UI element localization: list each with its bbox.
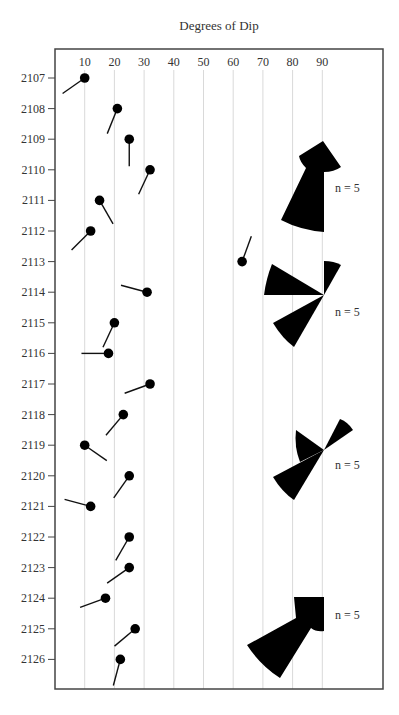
tadpole xyxy=(95,196,113,224)
rose-petal xyxy=(296,430,325,462)
tadpole xyxy=(113,655,125,686)
tadpole-head xyxy=(86,226,96,236)
tadpole-head xyxy=(101,593,111,603)
tadpole xyxy=(125,379,155,393)
depth-label: 2123 xyxy=(21,561,45,575)
tadpole xyxy=(81,349,113,359)
x-axis-tick-labels: 102030405060708090 xyxy=(79,55,329,69)
tadpole xyxy=(80,440,107,460)
tadpole-markers xyxy=(63,73,252,685)
tadpole xyxy=(121,285,152,297)
rose-petal xyxy=(247,597,324,678)
plot-frame xyxy=(55,49,383,689)
tadpole-head xyxy=(86,502,96,512)
tadpole-head xyxy=(104,349,114,359)
tadpole-head xyxy=(119,410,129,420)
depth-label: 2121 xyxy=(21,499,45,513)
depth-label: 2109 xyxy=(21,132,45,146)
rose-petal xyxy=(264,264,324,295)
depth-label: 2112 xyxy=(21,224,45,238)
x-tick-label: 90 xyxy=(316,55,328,69)
vertical-gridlines xyxy=(85,70,323,689)
rose-diagram-2: n = 5 xyxy=(264,261,360,347)
depth-label: 2110 xyxy=(21,163,45,177)
tadpole xyxy=(107,563,134,583)
tadpole xyxy=(106,410,128,435)
depth-label: 2116 xyxy=(21,346,45,360)
tadpole-head xyxy=(237,257,247,267)
tadpole xyxy=(139,165,155,194)
rose-petal xyxy=(324,261,341,295)
depth-label: 2107 xyxy=(21,71,45,85)
tadpole-head xyxy=(145,379,155,389)
depth-label: 2115 xyxy=(21,316,45,330)
rose-diagram-4: n = 5 xyxy=(247,597,360,678)
tadpole-head xyxy=(80,440,90,450)
depth-label: 2111 xyxy=(22,193,45,207)
rose-petal xyxy=(324,419,353,450)
depth-label: 2114 xyxy=(21,285,45,299)
tadpole xyxy=(63,73,90,93)
tadpole-head xyxy=(116,655,126,665)
tadpole xyxy=(65,499,96,511)
tadpole xyxy=(116,532,134,560)
depth-label: 2118 xyxy=(21,408,45,422)
x-tick-label: 40 xyxy=(168,55,180,69)
x-tick-label: 60 xyxy=(227,55,239,69)
tadpole-head xyxy=(145,165,155,175)
rose-petal xyxy=(281,141,341,232)
rose-diagram-3: n = 5 xyxy=(273,419,360,500)
x-tick-label: 30 xyxy=(138,55,150,69)
tadpole-head xyxy=(142,287,152,297)
tadpole-head xyxy=(110,318,120,328)
tadpole xyxy=(124,134,134,166)
tadpole xyxy=(115,624,140,646)
depth-label: 2125 xyxy=(21,622,45,636)
x-tick-label: 70 xyxy=(257,55,269,69)
depth-axis: 2107210821092110211121122113211421152116… xyxy=(21,71,55,666)
depth-label: 2122 xyxy=(21,530,45,544)
depth-label: 2124 xyxy=(21,591,45,605)
dip-tadpole-chart: Degrees of Dip 102030405060708090 210721… xyxy=(0,0,399,715)
depth-label: 2119 xyxy=(21,438,45,452)
rose-count-label: n = 5 xyxy=(335,458,360,472)
x-tick-label: 50 xyxy=(198,55,210,69)
depth-label: 2117 xyxy=(21,377,45,391)
tadpole-head xyxy=(95,196,105,206)
tadpole-head xyxy=(130,624,140,634)
tadpole-head xyxy=(124,134,134,144)
x-tick-label: 20 xyxy=(108,55,120,69)
tadpole xyxy=(114,471,134,498)
tadpole-head xyxy=(124,532,134,542)
tadpole-head xyxy=(113,104,123,114)
tadpole xyxy=(72,226,96,250)
rose-count-label: n = 5 xyxy=(335,305,360,319)
tadpole-head xyxy=(124,471,134,481)
depth-label: 2120 xyxy=(21,469,45,483)
tadpole-head xyxy=(80,73,90,83)
depth-label: 2126 xyxy=(21,652,45,666)
rose-count-label: n = 5 xyxy=(335,608,360,622)
tadpole-head xyxy=(124,563,134,573)
rose-petal xyxy=(273,295,324,347)
x-tick-label: 10 xyxy=(79,55,91,69)
tadpole xyxy=(103,318,119,347)
rose-count-label: n = 5 xyxy=(335,181,360,195)
depth-label: 2113 xyxy=(21,255,45,269)
chart-title: Degrees of Dip xyxy=(179,18,258,33)
depth-label: 2108 xyxy=(21,102,45,116)
x-tick-label: 80 xyxy=(287,55,299,69)
tadpole xyxy=(237,236,251,266)
